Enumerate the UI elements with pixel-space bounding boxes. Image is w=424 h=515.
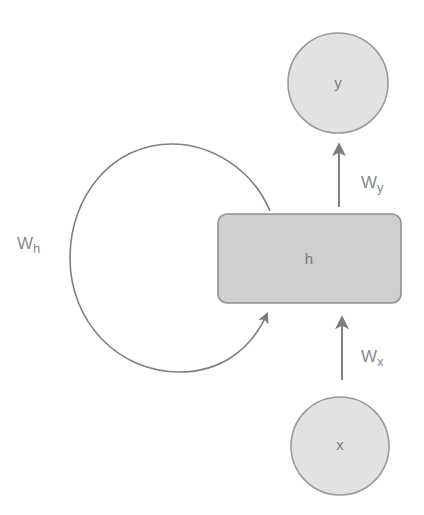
rnn-diagram: y Wy h Wh Wx x (0, 0, 424, 515)
weight-wy-main: W (361, 173, 377, 192)
weight-label-wh: Wh (17, 234, 40, 256)
hidden-node-label: h (305, 250, 313, 267)
input-node-label: x (336, 436, 344, 453)
weight-label-wy: Wy (361, 173, 384, 195)
input-node-x: x (291, 397, 389, 495)
hidden-node-h: h (218, 214, 401, 303)
output-node-y: y (288, 33, 388, 133)
weight-wx-sub: x (377, 354, 384, 369)
weight-wh-sub: h (33, 241, 40, 256)
weight-wy-sub: y (377, 180, 384, 195)
weight-wh-main: W (17, 234, 33, 253)
output-node-label: y (334, 74, 342, 91)
weight-wx-main: W (361, 347, 377, 366)
weight-label-wx: Wx (361, 347, 384, 369)
